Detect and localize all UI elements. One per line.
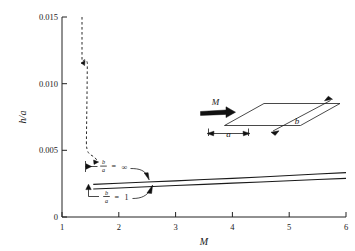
y-tick-label-0005: 0.005 <box>39 145 58 155</box>
y-axis-ticks: 0.015 0.010 0.005 0 <box>39 12 67 222</box>
annot-one-equals: = <box>115 193 120 202</box>
annot-inf-value: ∞ <box>122 163 128 172</box>
inset-mach-arrow <box>201 107 236 118</box>
x-axis-title: M <box>199 236 209 247</box>
inset-mach-arrow-group: M <box>201 97 236 118</box>
annot-one-value: 1 <box>125 193 129 202</box>
annot-one-left-arrowhead <box>86 184 91 189</box>
x-tick-label-5: 5 <box>287 222 291 232</box>
annot-inf-numerator: b <box>102 158 105 165</box>
inset-mach-label: M <box>211 97 220 107</box>
inset-flat-plate-schematic: M a b <box>201 96 341 138</box>
x-tick-label-6: 6 <box>344 222 348 232</box>
annot-one-right-leader <box>133 190 151 199</box>
annot-inf-right-arrowhead <box>144 173 149 180</box>
annot-inf-equals: = <box>112 162 117 171</box>
dashed-curve-lower-arrowhead <box>94 160 99 164</box>
y-axis-title: h/a <box>17 111 28 124</box>
axes-group <box>62 17 346 217</box>
curve-b-over-a-infinity-line <box>93 173 346 185</box>
annot-inf-denominator: a <box>102 166 105 173</box>
y-tick-label-0: 0 <box>54 212 58 222</box>
inset-dim-a-label: a <box>226 129 231 139</box>
annot-inf-left-arrowhead <box>86 164 92 169</box>
annot-one-denominator: a <box>105 197 108 204</box>
x-axis-ticks: 1 2 3 4 5 6 <box>60 212 348 232</box>
x-tick-label-1: 1 <box>60 222 64 232</box>
chart-canvas: 0.015 0.010 0.005 0 1 2 3 4 5 6 M h/a <box>0 0 355 251</box>
inset-dim-a-arrowhead-left <box>207 131 214 136</box>
curve-b-over-a-one-line <box>93 178 346 189</box>
annot-one-numerator: b <box>105 189 108 196</box>
y-tick-label-0015: 0.015 <box>39 12 58 22</box>
x-tick-label-3: 3 <box>173 222 177 232</box>
inset-plate-outline <box>225 104 341 126</box>
inset-dim-b-arrowhead-upper <box>325 96 333 101</box>
inset-dim-b-line <box>273 101 331 132</box>
dashed-curve-path <box>82 17 98 162</box>
inset-dim-a-arrowhead-right <box>243 131 250 136</box>
x-tick-label-2: 2 <box>117 222 121 232</box>
inset-dimension-b: b <box>271 96 333 135</box>
inset-dim-b-label: b <box>295 116 300 126</box>
inset-dim-b-arrowhead-lower <box>271 131 279 136</box>
y-tick-label-0010: 0.010 <box>39 79 58 89</box>
inset-dimension-a: a <box>207 129 250 139</box>
dashed-asymptote-curve <box>81 17 98 164</box>
x-tick-label-4: 4 <box>230 222 235 232</box>
figure-root: 0.015 0.010 0.005 0 1 2 3 4 5 6 M h/a <box>0 0 355 251</box>
